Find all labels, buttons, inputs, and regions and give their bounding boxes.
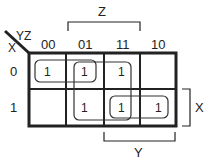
bracket-y [104,132,175,141]
cell-0-01: 1 [81,66,88,78]
bracket-x [182,89,190,126]
bracket-label-x: X [195,101,204,114]
cell-1-11: 1 [118,102,125,114]
cell-1-10: 1 [155,102,162,114]
bracket-z [68,22,140,31]
row-var-label: X [8,42,16,54]
col-header-10: 10 [151,38,165,51]
col-header-11: 11 [116,38,130,51]
col-var-label: YZ [16,30,31,42]
cell-0-11: 1 [118,66,125,78]
bracket-label-y: Y [134,146,143,159]
col-header-00: 00 [41,38,55,51]
row-header-0: 0 [10,65,17,78]
col-header-01: 01 [78,38,92,51]
row-header-1: 1 [10,101,17,114]
bracket-label-z: Z [98,5,106,18]
cell-1-01: 1 [81,102,88,114]
kmap-diagram [0,0,205,164]
cell-0-00: 1 [44,66,51,78]
